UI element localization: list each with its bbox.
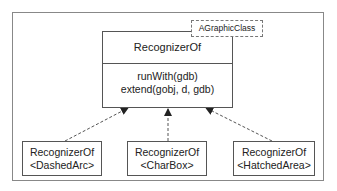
class-recognizerof-charbox: RecognizerOf <CharBox> — [127, 141, 207, 176]
template-parameter-box: AGraphicClass — [191, 20, 263, 37]
class-operations: runWith(gdb) extend(gobj, d, gdb) — [103, 64, 232, 96]
class-binding: <CharBox> — [128, 159, 206, 172]
class-name: RecognizerOf — [128, 146, 206, 159]
operation-extend: extend(gobj, d, gdb) — [103, 83, 232, 96]
class-name: RecognizerOf — [234, 146, 314, 159]
class-binding: <HatchedArea> — [234, 159, 314, 172]
class-recognizerof: RecognizerOf runWith(gdb) extend(gobj, d… — [102, 31, 233, 108]
class-name: RecognizerOf — [23, 146, 101, 159]
class-recognizerof-hatchedarea: RecognizerOf <HatchedArea> — [233, 141, 315, 176]
operation-runwith: runWith(gdb) — [103, 70, 232, 83]
class-recognizerof-dashedarc: RecognizerOf <DashedArc> — [22, 141, 102, 176]
class-binding: <DashedArc> — [23, 159, 101, 172]
